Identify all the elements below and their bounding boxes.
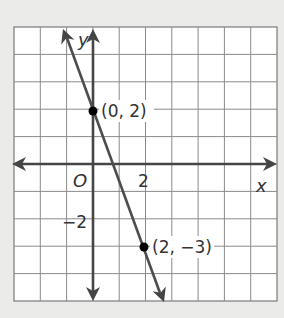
point-label-0-2: (0, 2) <box>101 101 147 121</box>
x-axis-label: x <box>255 175 267 196</box>
coordinate-plane: (0, 2) (2, −3) y x O 2 −2 <box>0 0 284 318</box>
origin-label: O <box>73 170 87 191</box>
y-tick-label-neg2: −2 <box>62 212 87 232</box>
data-point-2-neg3 <box>140 243 149 252</box>
y-axis-label: y <box>77 29 89 50</box>
point-label-2-neg3: (2, −3) <box>152 237 212 257</box>
x-tick-label-2: 2 <box>138 171 149 191</box>
data-point-0-2 <box>89 107 98 116</box>
